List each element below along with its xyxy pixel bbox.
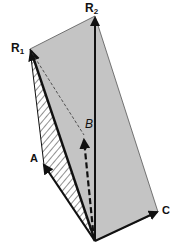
label-b: B bbox=[85, 117, 93, 131]
label-r1: R1 bbox=[11, 41, 25, 56]
label-c: C bbox=[162, 204, 170, 216]
label-r2: R2 bbox=[85, 1, 99, 16]
label-a: A bbox=[30, 152, 38, 164]
vector-diagram: R1 R2 A B C bbox=[0, 0, 179, 251]
